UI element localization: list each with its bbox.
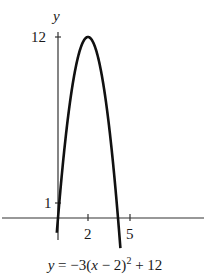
x-tick-label-5: 5: [126, 227, 134, 242]
y-tick-label-12: 12: [31, 30, 46, 45]
equation-caption: y = −3(x − 2)2 + 12: [0, 257, 210, 273]
y-tick-label-1: 1: [44, 196, 52, 211]
x-tick-label-2: 2: [84, 227, 92, 242]
y-axis-label: y: [53, 9, 60, 24]
